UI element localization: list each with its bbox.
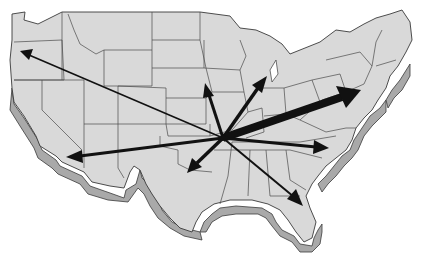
flow-hub xyxy=(220,135,226,141)
us-flow-map xyxy=(0,0,425,253)
map-land xyxy=(10,10,412,242)
